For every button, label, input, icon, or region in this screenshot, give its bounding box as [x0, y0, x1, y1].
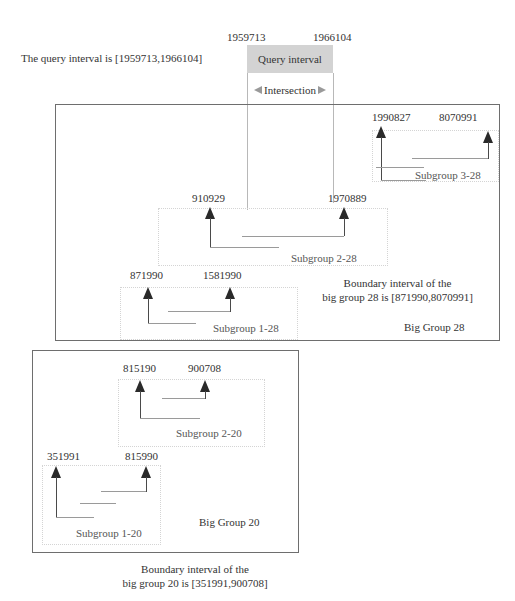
intersection-indicator: Intersection: [247, 82, 333, 98]
subgroup-2-20-start: 815190: [123, 362, 156, 375]
subgroup-2-28-start: 910929: [192, 192, 225, 205]
subgroup-3-28-end-base: [412, 158, 488, 159]
big-group-28-boundary-line1: Boundary interval of the: [300, 277, 495, 290]
subgroup-2-28-base-line: [210, 247, 279, 248]
query-interval-box: Query interval: [247, 45, 333, 73]
intersection-label: Intersection: [264, 84, 316, 96]
subgroup-1-28-end: 1581990: [203, 269, 242, 282]
subgroup-1-20-start: 351991: [47, 450, 80, 463]
subgroup-3-28-start-line: [381, 137, 382, 181]
subgroup-1-20-label: Subgroup 1-20: [76, 527, 142, 540]
subgroup-1-28-end-base: [168, 311, 230, 312]
query-interval-label: Query interval: [258, 53, 322, 65]
subgroup-2-20-end: 900708: [188, 362, 221, 375]
subgroup-1-28-label: Subgroup 1-28: [213, 322, 279, 335]
subgroup-2-20-label: Subgroup 2-20: [176, 427, 242, 440]
subgroup-2-28-end-base: [242, 236, 344, 237]
subgroup-3-28-label: Subgroup 3-28: [415, 169, 481, 182]
query-statement: The query interval is [1959713,1966104]: [21, 52, 202, 65]
subgroup-3-28-mid-line: [376, 167, 424, 168]
subgroup-2-20-base-line: [140, 418, 200, 419]
subgroup-1-20-mid-line: [80, 503, 116, 504]
subgroup-1-28-start-line: [148, 298, 149, 324]
subgroup-2-20-start-line: [140, 391, 141, 419]
subgroup-2-28-end-line: [344, 218, 345, 236]
subgroup-3-28-end: 8070991: [439, 111, 478, 124]
subgroup-1-20-end-line: [146, 477, 147, 492]
subgroup-1-28-start: 871990: [130, 269, 163, 282]
query-end-label: 1966104: [313, 31, 352, 44]
subgroup-2-20-end-base: [162, 398, 205, 399]
subgroup-1-20-end-base: [101, 491, 146, 492]
big-group-28-boundary-line2: big group 28 is [871990,8070991]: [300, 291, 495, 304]
subgroup-2-28-start-line: [210, 218, 211, 248]
arrow-right-icon: [318, 86, 326, 94]
big-group-20-title: Big Group 20: [199, 516, 260, 529]
subgroup-1-28-end-line: [230, 298, 231, 312]
query-start-label: 1959713: [227, 31, 266, 44]
subgroup-1-28-base-line: [148, 323, 196, 324]
subgroup-3-28-start: 1990827: [372, 111, 411, 124]
big-group-20-boundary-line1: Boundary interval of the: [100, 563, 290, 576]
subgroup-2-20-end-line: [205, 391, 206, 399]
big-group-28-title: Big Group 28: [404, 321, 465, 334]
subgroup-2-28-label: Subgroup 2-28: [291, 252, 357, 265]
subgroup-1-20-base-line: [56, 517, 94, 518]
arrow-left-icon: [254, 86, 262, 94]
subgroup-1-20-end: 815990: [125, 450, 158, 463]
subgroup-1-20-start-line: [56, 477, 57, 518]
subgroup-2-28-end: 1970889: [328, 192, 367, 205]
subgroup-3-28-end-line: [488, 142, 489, 159]
big-group-20-boundary-line2: big group 20 is [351991,900708]: [100, 577, 290, 590]
